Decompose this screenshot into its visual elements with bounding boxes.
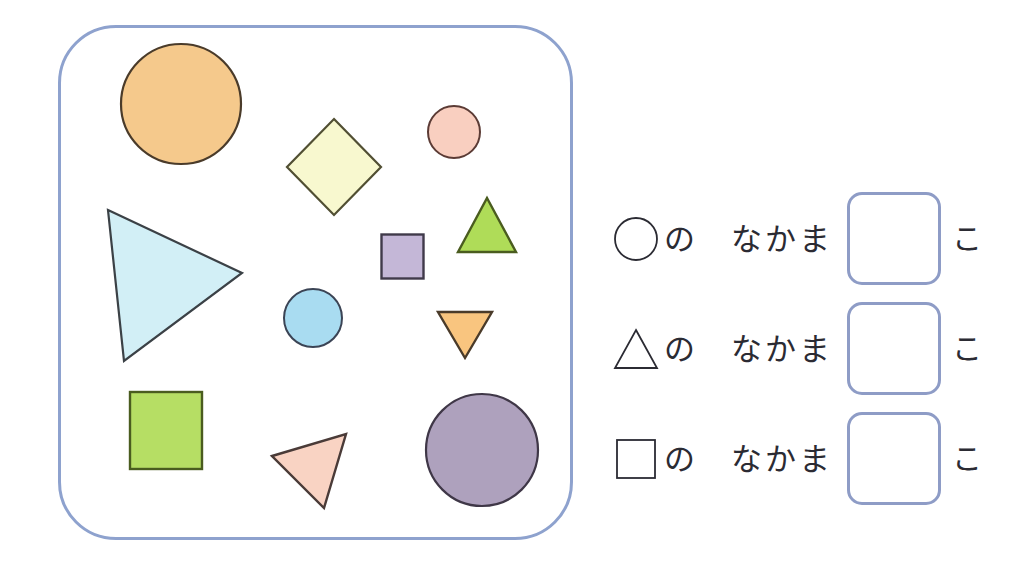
particle-no-circle-row: の: [664, 224, 695, 255]
shape-light-blue-circle[interactable]: [282, 287, 344, 349]
answer-row-circle: の なかま こ: [600, 192, 1000, 286]
particle-no-square-row: の: [664, 444, 695, 475]
shape-green-square[interactable]: [128, 390, 204, 471]
circle-outline-icon: [610, 213, 662, 265]
phrase-nakama-circle-row: なかま: [731, 224, 833, 255]
answer-input-square[interactable]: [847, 412, 941, 505]
worksheet-page: の なかま こ の なかま こ の なかま: [0, 0, 1027, 577]
counter-ko-square-row: こ: [952, 444, 982, 474]
answer-row-triangle: の なかま こ: [600, 302, 1000, 396]
counter-ko-circle-row: こ: [952, 224, 982, 254]
shape-large-cyan-triangle[interactable]: [105, 207, 247, 365]
shape-small-pink-circle[interactable]: [426, 104, 482, 160]
shape-green-triangle-up[interactable]: [455, 195, 519, 255]
shape-large-orange-circle[interactable]: [119, 42, 243, 166]
square-outline-icon: [610, 433, 662, 485]
shape-collection-panel: [58, 25, 573, 540]
phrase-nakama-square-row: なかま: [731, 444, 833, 475]
shape-large-purple-circle[interactable]: [424, 392, 540, 508]
answer-input-triangle[interactable]: [847, 302, 941, 395]
answer-panel: の なかま こ の なかま こ の なかま: [600, 180, 1000, 520]
shape-small-purple-square[interactable]: [380, 233, 425, 280]
phrase-nakama-triangle-row: なかま: [731, 334, 833, 365]
answer-input-circle[interactable]: [847, 192, 941, 285]
shape-orange-triangle-down[interactable]: [435, 309, 495, 361]
triangle-outline-icon: [610, 323, 662, 375]
counter-ko-triangle-row: こ: [952, 334, 982, 364]
answer-row-square: の なかま こ: [600, 412, 1000, 506]
shape-pink-triangle[interactable]: [269, 428, 351, 510]
particle-no-triangle-row: の: [664, 334, 695, 365]
shape-pale-yellow-diamond[interactable]: [285, 117, 383, 217]
